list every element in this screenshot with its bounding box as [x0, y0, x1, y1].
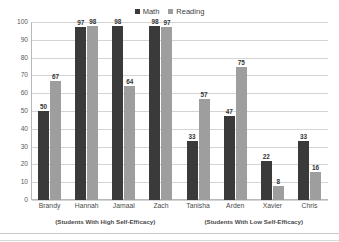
gridline	[32, 200, 328, 201]
bar-math-brandy[interactable]: 50	[38, 111, 49, 200]
bar-math-hannah[interactable]: 97	[75, 27, 86, 200]
legend-entry-reading[interactable]: Reading	[168, 8, 204, 16]
bar-group: 4775	[217, 22, 254, 200]
legend-swatch-reading	[168, 9, 173, 14]
bottom-divider	[0, 233, 339, 234]
x-axis-label: Zach	[142, 203, 179, 210]
bar-value-label: 22	[263, 154, 270, 160]
legend-label-math: Math	[143, 8, 160, 16]
bar-value-label: 97	[77, 20, 84, 26]
bar-math-jamaal[interactable]: 98	[112, 26, 123, 200]
bar-reading-jamaal[interactable]: 64	[124, 86, 135, 200]
bar-math-tanisha[interactable]: 33	[187, 141, 198, 200]
bar-group: 9864	[105, 22, 142, 200]
bar-math-xavier[interactable]: 22	[261, 161, 272, 200]
bar-group: 9897	[142, 22, 179, 200]
y-axis-tick-label: 20	[4, 161, 28, 168]
bar-value-label: 98	[114, 19, 121, 25]
bar-group: 9798	[68, 22, 105, 200]
y-axis-tick-label: 30	[4, 143, 28, 150]
y-axis-tick-label: 10	[4, 179, 28, 186]
x-axis-label: Arden	[217, 203, 254, 210]
bar-math-chris[interactable]: 33	[298, 141, 309, 200]
y-axis-tick-label: 100	[4, 19, 28, 26]
bar-value-label: 47	[226, 109, 233, 115]
bar-reading-zach[interactable]: 97	[161, 27, 172, 200]
y-axis-tick-label: 50	[4, 108, 28, 115]
y-axis-tick-label: 60	[4, 90, 28, 97]
y-axis-tick-label: 90	[4, 37, 28, 44]
bar-value-label: 98	[89, 19, 96, 25]
bar-value-label: 33	[300, 134, 307, 140]
chart-legend: Math Reading	[0, 8, 339, 16]
group-captions: (Students With High Self-Efficacy)(Stude…	[31, 219, 328, 225]
bar-reading-arden[interactable]: 75	[236, 67, 247, 201]
bars-layer: 5067979898649897335747752283316	[31, 22, 328, 200]
group-caption: (Students With High Self-Efficacy)	[31, 219, 180, 225]
y-axis-tick-label: 0	[4, 197, 28, 204]
x-axis-label: Hannah	[68, 203, 105, 210]
bar-math-zach[interactable]: 98	[149, 26, 160, 200]
bar-value-label: 50	[40, 104, 47, 110]
x-axis-label: Xavier	[254, 203, 291, 210]
x-axis-labels: BrandyHannahJamaalZachTanishaArdenXavier…	[31, 203, 328, 210]
legend-label-reading: Reading	[176, 8, 204, 16]
y-axis-tick-label: 70	[4, 72, 28, 79]
x-axis-label: Jamaal	[105, 203, 142, 210]
bar-value-label: 97	[163, 20, 170, 26]
bar-value-label: 98	[151, 19, 158, 25]
x-axis-label: Chris	[291, 203, 328, 210]
bar-value-label: 67	[52, 74, 59, 80]
y-axis-tick-label: 40	[4, 126, 28, 133]
bar-value-label: 75	[238, 60, 245, 66]
bottom-divider-secondary	[0, 240, 339, 241]
x-axis-label: Brandy	[31, 203, 68, 210]
bar-reading-xavier[interactable]: 8	[273, 186, 284, 200]
x-axis-label: Tanisha	[180, 203, 217, 210]
bar-reading-hannah[interactable]: 98	[87, 26, 98, 200]
bar-reading-chris[interactable]: 16	[310, 172, 321, 200]
bar-value-label: 57	[201, 92, 208, 98]
bar-group: 3357	[180, 22, 217, 200]
bar-reading-brandy[interactable]: 67	[50, 81, 61, 200]
legend-entry-math[interactable]: Math	[135, 8, 160, 16]
group-caption: (Students With Low Self-Efficacy)	[180, 219, 329, 225]
bar-chart: Math Reading 1009080706050403020100 5067…	[0, 0, 339, 242]
bar-reading-tanisha[interactable]: 57	[199, 99, 210, 200]
bar-value-label: 64	[126, 79, 133, 85]
bar-value-label: 16	[312, 165, 319, 171]
bar-group: 5067	[31, 22, 68, 200]
y-axis-tick-label: 80	[4, 54, 28, 61]
bar-value-label: 8	[277, 179, 281, 185]
bar-group: 228	[254, 22, 291, 200]
bar-math-arden[interactable]: 47	[224, 116, 235, 200]
legend-swatch-math	[135, 9, 140, 14]
bar-group: 3316	[291, 22, 328, 200]
bar-value-label: 33	[189, 134, 196, 140]
